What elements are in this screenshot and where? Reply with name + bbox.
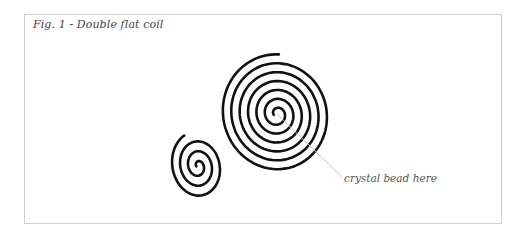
callout-label: crystal bead here bbox=[344, 172, 437, 184]
large-coil-spiral bbox=[223, 54, 327, 169]
spirals bbox=[172, 54, 327, 195]
double-coil-illustration bbox=[0, 0, 527, 240]
small-coil-spiral bbox=[172, 136, 220, 196]
